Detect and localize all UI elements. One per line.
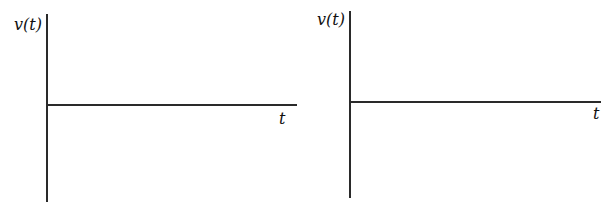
left-x-axis bbox=[46, 104, 297, 106]
left-y-axis-label: v(t) bbox=[14, 17, 42, 33]
right-x-axis bbox=[349, 101, 601, 103]
left-y-axis bbox=[46, 14, 48, 202]
right-y-axis bbox=[349, 11, 351, 198]
right-plot: v(t) t bbox=[305, 0, 609, 204]
left-x-axis-label: t bbox=[279, 111, 285, 127]
right-y-axis-label: v(t) bbox=[317, 12, 345, 28]
left-plot: v(t) t bbox=[0, 0, 305, 204]
right-x-axis-label: t bbox=[593, 106, 599, 122]
